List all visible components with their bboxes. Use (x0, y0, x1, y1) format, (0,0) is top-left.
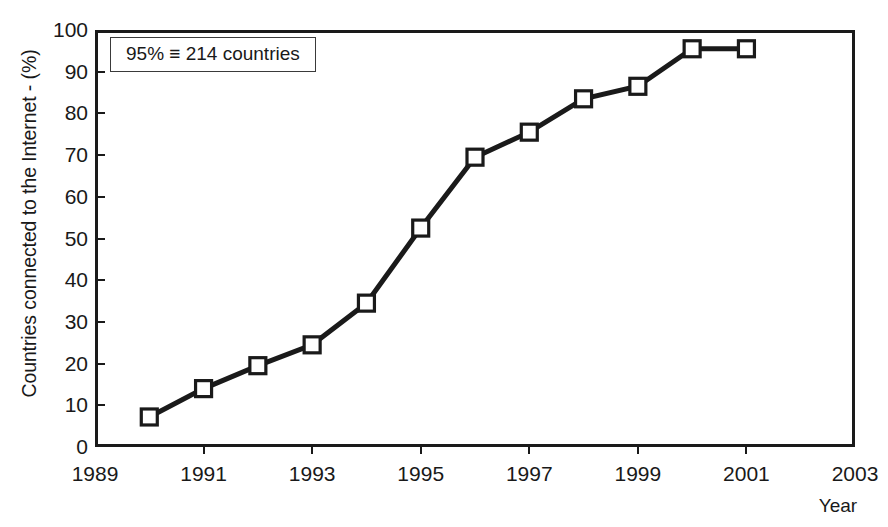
y-tick-mark (95, 404, 105, 406)
x-tick-mark (637, 444, 639, 454)
y-tick-label: 30 (20, 310, 88, 334)
y-tick-label: 10 (20, 393, 88, 417)
x-tick-label: 1991 (154, 462, 254, 486)
x-tick-mark (528, 444, 530, 454)
x-tick-label: 1995 (371, 462, 471, 486)
x-tick-mark (745, 444, 747, 454)
y-tick-label: 80 (20, 101, 88, 125)
y-tick-label: 0 (20, 435, 88, 459)
x-tick-label: 2001 (696, 462, 796, 486)
y-tick-mark (95, 363, 105, 365)
y-tick-mark (95, 196, 105, 198)
y-tick-label: 60 (20, 185, 88, 209)
x-tick-label: 1993 (262, 462, 362, 486)
y-tick-label: 20 (20, 352, 88, 376)
plot-area (95, 30, 855, 447)
x-tick-mark (420, 444, 422, 454)
y-tick-mark (95, 71, 105, 73)
y-tick-mark (95, 238, 105, 240)
x-axis-label: Year (783, 495, 888, 517)
x-tick-label: 1999 (588, 462, 688, 486)
y-tick-mark (95, 321, 105, 323)
x-tick-mark (311, 444, 313, 454)
chart-figure: Countries connected to the Internet - (%… (0, 0, 888, 527)
y-tick-label: 90 (20, 60, 88, 84)
y-tick-label: 40 (20, 268, 88, 292)
y-tick-mark (95, 112, 105, 114)
caption-remnant (300, 0, 600, 5)
x-tick-label: 1989 (45, 462, 145, 486)
x-tick-label: 1997 (479, 462, 579, 486)
y-tick-mark (95, 279, 105, 281)
x-tick-label: 2003 (805, 462, 888, 486)
y-tick-label: 100 (20, 18, 88, 42)
annotation-box: 95% ≡ 214 countries (110, 37, 316, 72)
x-tick-mark (203, 444, 205, 454)
y-tick-mark (95, 154, 105, 156)
y-tick-label: 70 (20, 143, 88, 167)
y-tick-label: 50 (20, 227, 88, 251)
